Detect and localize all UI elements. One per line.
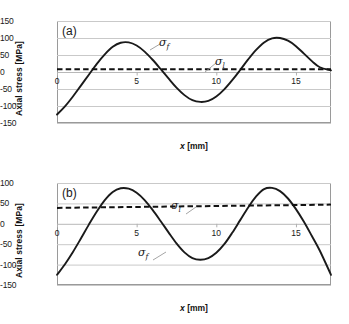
annotation-sigma-f-a: σf: [159, 36, 169, 51]
leader-line-sigma-l-b: [186, 207, 196, 214]
chart-panel-a: 150100500-50-100-150 051015 Axial stress…: [0, 0, 349, 162]
figure-container: 150100500-50-100-150 051015 Axial stress…: [0, 0, 349, 324]
chart-panel-b: 100500-50-100-150 051015 Axial stress [M…: [0, 162, 349, 324]
leader-line-sigma-f-b: [153, 252, 166, 260]
annotation-sigma-l-b: σl: [171, 199, 181, 214]
annotation-sigma-f-b: σf: [138, 246, 148, 261]
curve-sigma-f-a: [57, 38, 331, 115]
plot-svg-b: [0, 162, 349, 324]
curve-sigma-f-b: [57, 188, 331, 275]
plot-svg-a: [0, 0, 349, 162]
line-sigma-l-b: [57, 205, 331, 208]
annotation-sigma-l-a: σl: [215, 55, 225, 70]
